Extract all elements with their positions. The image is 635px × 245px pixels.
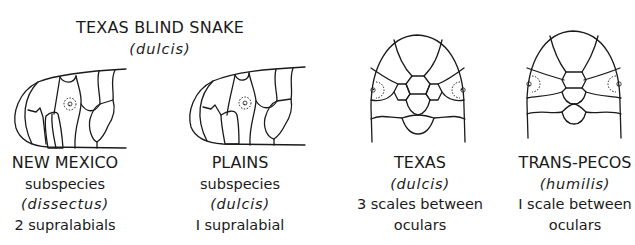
caption-taxon: (humilis) bbox=[505, 174, 635, 195]
caption-region: PLAINS bbox=[178, 153, 302, 174]
caption-subspecies-label: subspecies bbox=[0, 174, 130, 195]
head-side-view-new-mexico bbox=[8, 64, 128, 150]
diagram-subtitle-species: (dulcis) bbox=[0, 41, 320, 57]
head-top-view-texas bbox=[368, 32, 468, 146]
caption-region: TRANS-PECOS bbox=[505, 153, 635, 174]
head-top-view-trans-pecos bbox=[524, 28, 624, 142]
caption-trait-line2: oculars bbox=[340, 215, 500, 236]
caption-trait: 2 supralabials bbox=[0, 215, 130, 236]
caption-subspecies-label: subspecies bbox=[178, 174, 302, 195]
caption-plains: PLAINS subspecies (dulcis) I supralabial bbox=[178, 153, 302, 235]
head-side-view-plains bbox=[183, 63, 308, 149]
caption-new-mexico: NEW MEXICO subspecies (dissectus) 2 supr… bbox=[0, 153, 130, 235]
caption-trait: I scale between bbox=[505, 194, 635, 215]
caption-trait: 3 scales between bbox=[340, 194, 500, 215]
diagram-title: TEXAS BLIND SNAKE bbox=[0, 18, 320, 37]
caption-texas: TEXAS (dulcis) 3 scales between oculars bbox=[340, 153, 500, 235]
caption-trait-line2: oculars bbox=[505, 215, 635, 236]
caption-taxon: (dissectus) bbox=[0, 194, 130, 215]
caption-trait: I supralabial bbox=[178, 215, 302, 236]
caption-region: TEXAS bbox=[340, 153, 500, 174]
caption-region: NEW MEXICO bbox=[0, 153, 130, 174]
caption-trans-pecos: TRANS-PECOS (humilis) I scale between oc… bbox=[505, 153, 635, 235]
caption-taxon: (dulcis) bbox=[178, 194, 302, 215]
caption-taxon: (dulcis) bbox=[340, 174, 500, 195]
